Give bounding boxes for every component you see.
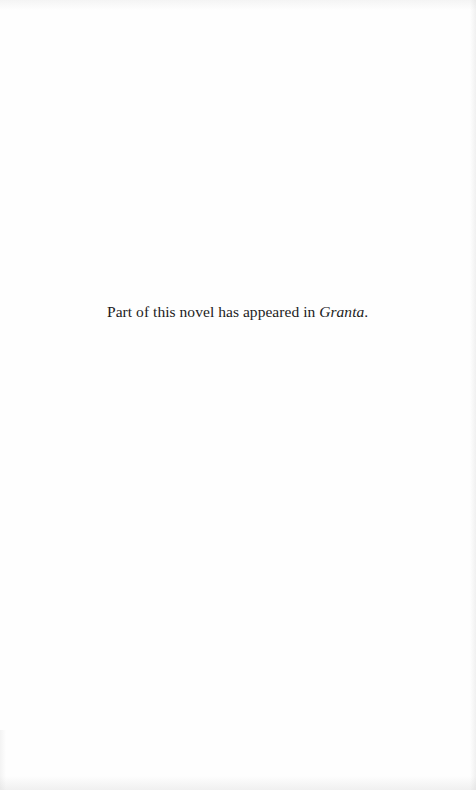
- publication-notice: Part of this novel has appeared in Grant…: [107, 302, 368, 322]
- book-page: Part of this novel has appeared in Grant…: [0, 0, 476, 790]
- notice-period: .: [364, 303, 368, 320]
- publication-title: Granta: [319, 303, 364, 320]
- scan-shadow-top: [0, 0, 476, 10]
- scan-shadow-bottom: [0, 776, 476, 790]
- notice-text: Part of this novel has appeared in: [107, 303, 319, 320]
- scan-shadow-right: [470, 0, 476, 790]
- scan-shadow-left: [0, 730, 6, 790]
